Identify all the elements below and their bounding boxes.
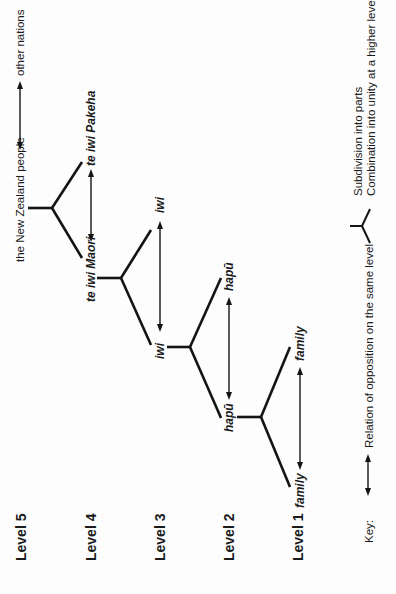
- node-other-nations: other nations: [14, 9, 26, 76]
- node-hapu-right: hapū: [222, 262, 236, 291]
- legend-fork-icon: [350, 209, 370, 243]
- opposition-arrow-level3: [157, 221, 163, 332]
- node-te-iwi-pakeha: te iwi Pakeha: [84, 90, 98, 166]
- legend-fork-label-1: Subdivision into parts: [352, 86, 364, 196]
- node-iwi-left: iwi: [153, 342, 167, 359]
- node-hapu-left: hapū: [222, 403, 236, 432]
- node-family-right: family: [293, 325, 307, 361]
- node-te-iwi-maori: te iwi Maori: [84, 236, 98, 302]
- level-4-label: Level 4: [83, 513, 99, 561]
- legend-fork-label-2: Combination into unity at a higher level: [365, 0, 377, 196]
- legend-opposition-arrow-icon: [365, 454, 371, 496]
- level-1-label: Level 1: [290, 513, 306, 561]
- fork-level2: [237, 347, 290, 487]
- segmentary-diagram: Level 5 Level 4 Level 3 Level 2 Level 1 …: [0, 0, 396, 594]
- diagram-canvas: Level 5 Level 4 Level 3 Level 2 Level 1 …: [0, 0, 396, 594]
- node-new-zealand-people: the New Zealand people: [14, 137, 26, 262]
- legend-opposition-label: Relation of opposition on the same level: [363, 244, 375, 448]
- opposition-arrow-level1: [297, 367, 303, 470]
- legend-title: Key:: [363, 520, 375, 543]
- fork-level3: [167, 278, 221, 418]
- opposition-arrow-level4: [88, 169, 94, 242]
- node-iwi-right: iwi: [153, 196, 167, 213]
- opposition-arrow-level2: [226, 297, 232, 400]
- node-family-left: family: [293, 472, 307, 508]
- fork-level5: [28, 162, 82, 258]
- level-3-label: Level 3: [152, 513, 168, 561]
- level-5-label: Level 5: [13, 513, 29, 561]
- legend: Key: Relation of opposition on the same …: [350, 0, 377, 543]
- fork-level4: [97, 230, 151, 345]
- level-2-label: Level 2: [221, 513, 237, 561]
